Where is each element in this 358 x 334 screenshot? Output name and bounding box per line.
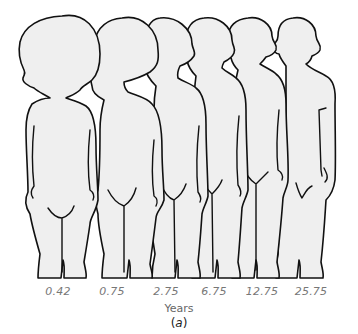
x-axis-label: Years [164,302,193,315]
silhouette-0-42 [19,15,100,278]
age-label-0-42: 0.42 [45,285,70,298]
silhouette-0-75 [91,17,164,278]
panel-label: (a) [171,316,188,330]
age-label-12-75: 12.75 [246,285,279,298]
age-label-6-75: 6.75 [201,285,226,298]
age-label-25-75: 25.75 [295,285,328,298]
body-proportions-figure [0,0,358,334]
age-label-2-75: 2.75 [153,285,178,298]
age-label-0-75: 0.75 [99,285,124,298]
panel-letter: a [175,316,182,330]
